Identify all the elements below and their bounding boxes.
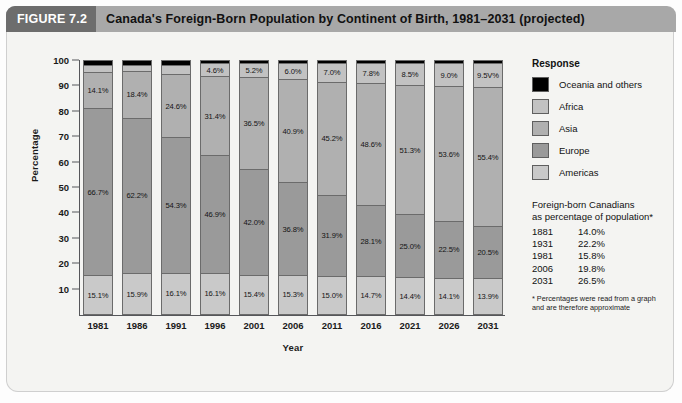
bar-segment: 7.0% [318, 63, 346, 81]
legend: Oceania and othersAfricaAsiaEuropeAmeric… [532, 74, 672, 184]
bar-segment: 36.5% [240, 77, 268, 169]
stats-row-year: 1881 [532, 226, 578, 238]
bar-segment: 6.0% [279, 63, 307, 79]
legend-item[interactable]: Europe [532, 140, 672, 161]
legend-item[interactable]: Oceania and others [532, 74, 672, 95]
bar-segment-label: 62.2% [126, 191, 147, 200]
stats-row-year: 1981 [532, 250, 578, 262]
bar-segment: 24.6% [162, 74, 190, 136]
stats-row: 198115.8% [532, 250, 672, 262]
bar-stack[interactable]: 9.0%53.6%22.5%14.1% [434, 60, 464, 315]
bar-segment: 15.4% [240, 275, 268, 314]
bar-segment-label: 18.4% [126, 90, 147, 99]
bar-segment-label: 6.0% [285, 67, 302, 76]
bar-segment-label: 31.4% [204, 112, 225, 121]
bar-segment: 14.7% [357, 276, 385, 314]
bar-stack[interactable]: 18.4%62.2%15.9% [122, 60, 152, 315]
legend-swatch [532, 165, 549, 180]
bar-segment: 13.9% [474, 278, 502, 314]
bar-segment-label: 15.0% [321, 291, 342, 300]
bar-segment: 45.2% [318, 82, 346, 196]
stats-row-year: 1931 [532, 238, 578, 250]
legend-item-label: Europe [559, 145, 590, 156]
y-axis-tick-mark [72, 187, 79, 188]
x-axis-tick-label: 2021 [395, 320, 425, 336]
y-axis-tick-mark [72, 237, 79, 238]
y-axis-tick-mark [72, 60, 79, 61]
bar-segment-label: 5.2% [246, 66, 263, 75]
stats-row-year: 2006 [532, 263, 578, 275]
x-axis-title: Year [83, 342, 503, 353]
legend-item-label: Oceania and others [559, 79, 642, 90]
bar-segment-label: 46.9% [204, 210, 225, 219]
figure-number-tag: FIGURE 7.2 [6, 6, 96, 32]
bar-segment: 9.5V% [474, 63, 502, 88]
bar-segment-label: 14.7% [360, 291, 381, 300]
bar-segment: 62.2% [123, 118, 151, 274]
bar-group: 14.1%66.7%15.1%18.4%62.2%15.9%24.6%54.3%… [83, 60, 503, 315]
stats-row: 200619.8% [532, 263, 672, 275]
bar-segment: 16.1% [201, 273, 229, 314]
legend-swatch [532, 121, 549, 136]
bar-stack[interactable]: 4.6%31.4%46.9%16.1% [200, 60, 230, 315]
x-axis-tick-label: 2011 [317, 320, 347, 336]
bar-segment-label: 55.4% [477, 153, 498, 162]
bar-stack[interactable]: 7.8%48.6%28.1%14.7% [356, 60, 386, 315]
bar-segment-label: 36.5% [243, 119, 264, 128]
bar-segment-label: 48.6% [360, 140, 381, 149]
y-axis-tick-mark [72, 136, 79, 137]
x-axis-tick-label: 2006 [278, 320, 308, 336]
side-panel: Response Oceania and othersAfricaAsiaEur… [519, 32, 675, 392]
bar-segment: 53.6% [435, 86, 463, 220]
bar-segment: 54.3% [162, 137, 190, 273]
bar-stack[interactable]: 14.1%66.7%15.1% [83, 60, 113, 315]
x-axis-ticks: 1981198619911996200120062011201620212026… [83, 320, 503, 336]
x-axis-tick-label: 2016 [356, 320, 386, 336]
stats-table: 188114.0%193122.2%198115.8%200619.8%2031… [532, 226, 672, 287]
bar-segment-label: 54.3% [165, 201, 186, 210]
bar-segment-label: 20.5% [477, 248, 498, 257]
y-axis-tick-mark [72, 288, 79, 289]
bar-segment-label: 9.5V% [477, 71, 499, 80]
legend-swatch [532, 99, 549, 114]
bar-stack[interactable]: 9.5V%55.4%20.5%13.9% [473, 60, 503, 315]
bar-segment-label: 15.9% [126, 290, 147, 299]
footnote: * Percentages were read from a graph and… [532, 294, 664, 312]
figure-header: FIGURE 7.2 Canada's Foreign-Born Populat… [6, 6, 676, 32]
bar-stack[interactable]: 6.0%40.9%36.8%15.3% [278, 60, 308, 315]
bar-segment: 40.9% [279, 79, 307, 182]
y-axis-tick-mark [72, 110, 79, 111]
legend-item-label: Americas [559, 167, 599, 178]
bar-segment-label: 51.3% [399, 146, 420, 155]
bar-stack[interactable]: 8.5%51.3%25.0%14.4% [395, 60, 425, 315]
bar-segment: 4.6% [201, 63, 229, 75]
x-axis-tick-label: 1986 [122, 320, 152, 336]
bar-stack[interactable]: 24.6%54.3%16.1% [161, 60, 191, 315]
bar-segment: 48.6% [357, 83, 385, 205]
legend-swatch [532, 143, 549, 158]
y-axis-tick-mark [72, 161, 79, 162]
figure-root: FIGURE 7.2 Canada's Foreign-Born Populat… [0, 0, 682, 403]
bar-stack[interactable]: 5.2%36.5%42.0%15.4% [239, 60, 269, 315]
bar-segment: 15.9% [123, 273, 151, 314]
bar-segment: 55.4% [474, 87, 502, 226]
legend-title: Response [532, 58, 580, 69]
y-axis-line [79, 60, 80, 315]
legend-item[interactable]: Americas [532, 162, 672, 183]
legend-item[interactable]: Asia [532, 118, 672, 139]
bar-segment-label: 31.9% [321, 231, 342, 240]
bar-segment [162, 65, 190, 74]
stats-heading-line-2: as percentage of population* [532, 211, 677, 223]
bar-segment: 31.9% [318, 195, 346, 275]
legend-item-label: Asia [559, 123, 577, 134]
bar-stack[interactable]: 7.0%45.2%31.9%15.0% [317, 60, 347, 315]
bar-segment: 42.0% [240, 169, 268, 275]
x-axis-tick-label: 1996 [200, 320, 230, 336]
bar-segment-label: 28.1% [360, 237, 381, 246]
stats-row: 188114.0% [532, 226, 672, 238]
stats-row-value: 14.0% [578, 226, 605, 238]
stats-row-year: 2031 [532, 275, 578, 287]
legend-item[interactable]: Africa [532, 96, 672, 117]
bar-segment-label: 14.1% [87, 86, 108, 95]
stats-row-value: 15.8% [578, 250, 605, 262]
